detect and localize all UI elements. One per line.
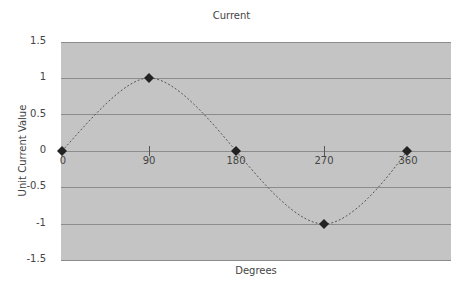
x-tick-label: 270 [314, 155, 333, 166]
x-tick-label: 360 [398, 155, 417, 166]
x-tick-label: 90 [143, 155, 156, 166]
x-tick-label: 0 [60, 155, 66, 166]
x-tick-label: 180 [226, 155, 245, 166]
plot-area: 0 90 180 270 360 [0, 0, 463, 290]
